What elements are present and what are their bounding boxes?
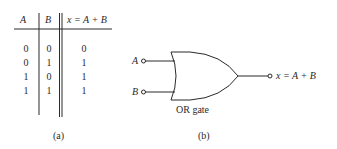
header-a: A — [20, 14, 26, 26]
gate-label: OR gate — [176, 104, 209, 116]
table-cell: 1 — [16, 71, 36, 83]
table-cell: 1 — [74, 85, 94, 97]
table-cell: 1 — [74, 57, 94, 69]
table-cell: 0 — [74, 43, 94, 55]
table-cell: 0 — [16, 57, 36, 69]
table-cell: 0 — [39, 43, 59, 55]
header-b: B — [45, 14, 51, 26]
input-b-label: B — [132, 86, 138, 98]
table-cell: 1 — [16, 85, 36, 97]
table-cell: 0 — [39, 71, 59, 83]
input-a-terminal — [142, 59, 146, 63]
caption-b: (b) — [198, 130, 210, 142]
output-terminal — [268, 74, 272, 78]
input-a-label: A — [132, 55, 138, 67]
table-cell: 1 — [39, 57, 59, 69]
caption-a: (a) — [53, 130, 64, 142]
input-b-terminal — [142, 90, 146, 94]
table-cell: 1 — [39, 85, 59, 97]
table-cell: 0 — [16, 43, 36, 55]
table-cell: 1 — [74, 71, 94, 83]
header-x: x = A + B — [67, 14, 107, 26]
output-label: x = A + B — [276, 70, 316, 82]
or-gate-symbol — [171, 52, 238, 100]
